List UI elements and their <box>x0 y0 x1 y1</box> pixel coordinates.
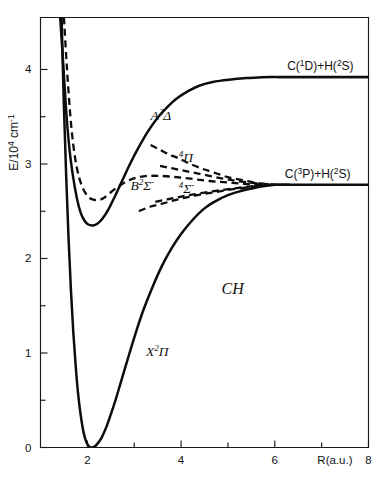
potential-energy-curve-figure: 012342468R(a.u.)E/104 cm-1 C(1D)+H(2S)C(… <box>0 0 390 483</box>
x-axis-title: R(a.u.) <box>317 454 352 466</box>
axis-tick-labels: 012342468R(a.u.)E/104 cm-1 <box>6 63 372 465</box>
y-tick-label: 4 <box>25 63 32 75</box>
x-tick-label: 8 <box>365 454 371 466</box>
axis-frame <box>41 18 369 448</box>
limit-c3p-label: C(3P)+H(2S) <box>285 166 351 181</box>
x-tick-label: 2 <box>84 454 90 466</box>
curve-x2pi-label: X2Π <box>145 343 170 359</box>
curve-4pi-label: 4Π <box>179 149 195 165</box>
x-tick-label: 4 <box>178 454 185 466</box>
x-tick-label: 6 <box>272 454 278 466</box>
y-axis-title: E/104 cm-1 <box>6 114 21 171</box>
potential-curve-quartetupperfan <box>160 166 275 185</box>
y-tick-label: 0 <box>25 442 31 454</box>
y-tick-label: 2 <box>25 252 31 264</box>
plot-frame <box>41 18 369 448</box>
y-tick-label: 3 <box>25 158 31 170</box>
curve-and-limit-labels: C(1D)+H(2S)C(3P)+H(2S)X2ΠA2ΔB2Σ-4Π4Σ-CH <box>130 58 353 359</box>
curve-a2delta-label: A2Δ <box>150 107 172 123</box>
molecule-label: CH <box>221 280 245 297</box>
potential-curves <box>60 18 368 448</box>
potential-curve-x2 <box>62 18 289 448</box>
axis-ticks <box>41 69 369 447</box>
plot-canvas: 012342468R(a.u.)E/104 cm-1 C(1D)+H(2S)C(… <box>0 0 390 483</box>
limit-c1d-label: C(1D)+H(2S) <box>287 58 353 73</box>
curve-b2sigma-label: B2Σ- <box>130 177 154 193</box>
potential-curve-4 <box>151 145 275 185</box>
y-tick-label: 1 <box>25 347 31 359</box>
potential-curve-a2 <box>60 18 368 226</box>
